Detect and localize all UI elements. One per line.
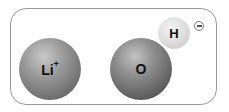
minus-circle-icon xyxy=(194,21,204,31)
oxygen-sphere: O xyxy=(110,38,172,100)
lithium-ion-sphere: Li+ xyxy=(19,38,81,100)
lithium-label: Li+ xyxy=(41,61,59,78)
lithium-charge: + xyxy=(54,59,59,69)
hydrogen-label: H xyxy=(169,26,178,41)
hydrogen-sphere: H xyxy=(158,17,190,49)
oxygen-label: O xyxy=(136,61,147,77)
